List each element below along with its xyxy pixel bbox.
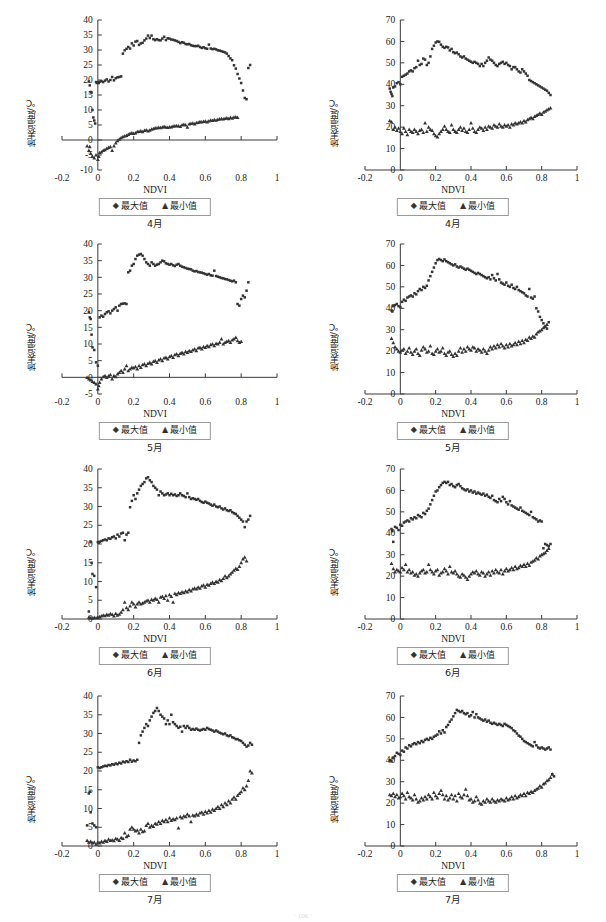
data-point (498, 498, 501, 501)
data-point (457, 53, 460, 56)
data-point (102, 315, 105, 318)
data-point (411, 295, 414, 298)
data-point (218, 340, 222, 344)
data-point (421, 568, 425, 572)
data-point (246, 778, 250, 782)
data-point (436, 733, 439, 736)
chart-legend[interactable]: ◆最大值▲最小值 (99, 874, 211, 892)
data-point (547, 92, 550, 95)
legend-item-max[interactable]: ◆最大值 (411, 649, 446, 662)
legend-item-min[interactable]: ▲最小值 (460, 424, 495, 437)
x-axis-label: NDVI (10, 634, 300, 644)
x-tick-label: 0.2 (430, 622, 442, 632)
x-tick-label: 0.6 (199, 397, 211, 407)
y-tick-label: 35 (83, 256, 93, 266)
x-tick-label: 1 (275, 622, 280, 632)
data-point (447, 724, 450, 727)
y-tick-label: 30 (386, 550, 396, 560)
data-point (390, 93, 393, 96)
legend-item-max[interactable]: ◆最大值 (113, 424, 148, 437)
legend-item-min[interactable]: ▲最小值 (460, 200, 495, 213)
legend-item-max[interactable]: ◆最大值 (411, 424, 446, 437)
data-point (391, 530, 394, 533)
legend-item-min[interactable]: ▲最小值 (162, 649, 197, 662)
chart-legend[interactable]: ◆最大值▲最小值 (397, 647, 509, 665)
data-point (408, 520, 411, 523)
data-point (89, 318, 92, 321)
plot-canvas-jun-left: 0510152025303540-0.200.20.40.60.81 (10, 457, 300, 679)
data-point (240, 82, 243, 85)
chart-legend[interactable]: ◆最大值▲最小值 (99, 198, 211, 216)
data-point (441, 570, 445, 574)
chart-panel-apr-left: 地表温度/℃-10-50510152025303540-0.200.20.40.… (10, 8, 300, 230)
y-tick-label: 60 (386, 486, 396, 496)
data-point (420, 63, 423, 66)
data-point (457, 792, 461, 796)
legend-item-min[interactable]: ▲最小值 (162, 424, 197, 437)
data-point (128, 604, 132, 608)
legend-label-max: 最大值 (121, 877, 148, 887)
legend-item-max[interactable]: ◆最大值 (411, 200, 446, 213)
x-tick-label: -0.2 (54, 622, 69, 632)
chart-legend[interactable]: ◆最大值▲最小值 (397, 874, 509, 892)
legend-item-max[interactable]: ◆最大值 (113, 200, 148, 213)
data-point (443, 797, 447, 801)
data-point (138, 488, 141, 491)
data-point (451, 797, 455, 801)
data-point (413, 793, 417, 797)
data-point (411, 518, 414, 521)
y-tick-label: 10 (386, 820, 396, 830)
legend-item-max[interactable]: ◆最大值 (411, 876, 446, 889)
data-point (440, 43, 443, 46)
data-point (390, 760, 393, 763)
y-tick-label: 25 (83, 747, 93, 757)
data-point (427, 279, 430, 282)
data-point (420, 516, 423, 519)
data-point (242, 89, 245, 92)
data-point (550, 772, 554, 776)
chart-legend[interactable]: ◆最大值▲最小值 (99, 647, 211, 665)
legend-item-min[interactable]: ▲最小值 (460, 876, 495, 889)
legend-item-min[interactable]: ▲最小值 (162, 876, 197, 889)
legend-item-min[interactable]: ▲最小值 (162, 200, 197, 213)
data-point (168, 816, 172, 820)
x-tick-label: 1 (575, 397, 580, 407)
data-point (459, 346, 463, 350)
legend-item-max[interactable]: ◆最大值 (113, 876, 148, 889)
chart-legend[interactable]: ◆最大值▲最小值 (99, 422, 211, 440)
data-point (168, 723, 171, 726)
x-tick-label: 0.8 (235, 849, 247, 859)
data-point (123, 600, 127, 604)
data-point (423, 121, 427, 125)
legend-item-min[interactable]: ▲最小值 (460, 649, 495, 662)
x-tick-label: 0.2 (430, 397, 442, 407)
chart-legend[interactable]: ◆最大值▲最小值 (397, 198, 509, 216)
data-point (388, 87, 391, 90)
data-point (450, 483, 453, 486)
data-point (462, 126, 466, 130)
data-point (427, 562, 431, 566)
data-point (519, 735, 522, 738)
legend-label-min: 最小值 (468, 650, 495, 660)
y-tick-label: 30 (386, 777, 396, 787)
x-tick-label: 0 (95, 849, 100, 859)
chart-legend[interactable]: ◆最大值▲最小值 (397, 422, 509, 440)
data-point (433, 495, 436, 498)
y-tick-label: 70 (386, 239, 396, 249)
y-tick-label: 5 (88, 120, 93, 130)
legend-item-max[interactable]: ◆最大值 (113, 649, 148, 662)
data-point (431, 48, 434, 51)
data-point (158, 494, 161, 497)
data-point (396, 527, 399, 530)
data-point (505, 501, 508, 504)
data-point (493, 62, 496, 65)
series-max (86, 707, 253, 829)
data-point (154, 710, 157, 713)
data-point (406, 747, 409, 750)
data-point (89, 84, 92, 87)
series-min (388, 772, 554, 806)
legend-label-max: 最大值 (121, 201, 148, 211)
x-tick-label: 0 (95, 173, 100, 183)
data-point (533, 295, 536, 298)
data-point (431, 738, 434, 741)
